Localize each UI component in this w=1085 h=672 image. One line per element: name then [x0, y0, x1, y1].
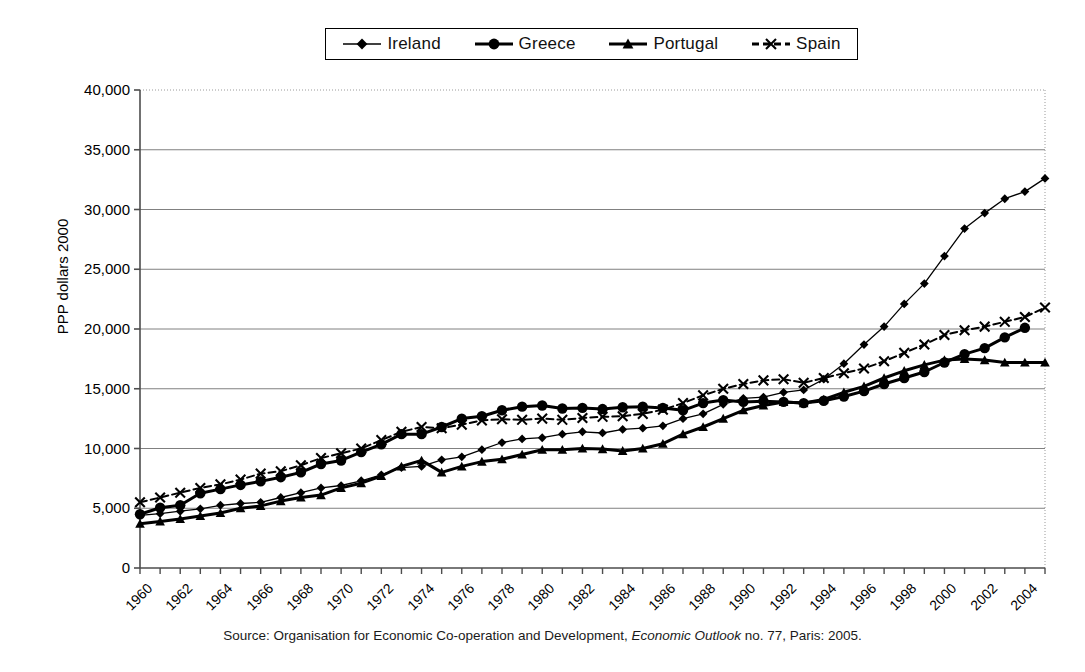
circle-marker [135, 509, 145, 519]
y-axis-tick-label: 0 [52, 559, 130, 576]
y-axis-tick-label: 10,000 [52, 440, 130, 457]
circle-marker [497, 405, 507, 415]
circle-marker [557, 403, 567, 413]
y-axis-tick-label: 30,000 [52, 201, 130, 218]
y-axis-tick-label: 25,000 [52, 260, 130, 277]
circle-marker [577, 403, 587, 413]
circle-marker [1020, 323, 1030, 333]
circle-marker [979, 343, 989, 353]
circle-marker [155, 502, 165, 512]
circle-marker [718, 395, 728, 405]
circle-marker [1000, 332, 1010, 342]
line-chart-svg [0, 0, 1085, 672]
source-note-title: Economic Outlook [631, 628, 741, 643]
circle-marker [537, 400, 547, 410]
source-note: Source: Organisation for Economic Co-ope… [0, 628, 1085, 643]
y-axis-tick-label: 40,000 [52, 81, 130, 98]
plot-area-wrapper: PPP dollars 2000 05,00010,00015,00020,00… [0, 0, 1085, 672]
y-axis-tick-label: 15,000 [52, 380, 130, 397]
source-note-prefix: Source: Organisation for Economic Co-ope… [223, 628, 631, 643]
circle-marker [517, 401, 527, 411]
circle-marker [617, 402, 627, 412]
source-note-suffix: no. 77, Paris: 2005. [741, 628, 862, 643]
circle-marker [175, 500, 185, 510]
y-axis-tick-label: 20,000 [52, 320, 130, 337]
chart-figure: IrelandGreecePortugalSpain PPP dollars 2… [0, 0, 1085, 672]
y-axis-tick-label: 35,000 [52, 141, 130, 158]
y-axis-tick-label: 5,000 [52, 499, 130, 516]
